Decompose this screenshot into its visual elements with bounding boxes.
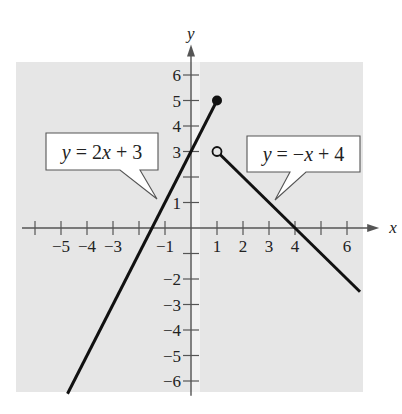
y-tick-label: 3 bbox=[173, 143, 182, 162]
x-tick-label: −4 bbox=[78, 237, 97, 256]
y-tick-label: 6 bbox=[173, 66, 182, 85]
x-axis-arrow-icon bbox=[367, 224, 379, 232]
y-axis-label: y bbox=[185, 24, 195, 43]
eq-var: y bbox=[60, 141, 71, 164]
eq-var: y bbox=[261, 143, 272, 166]
eq-part: = − bbox=[272, 143, 305, 165]
eq-var: x bbox=[303, 143, 313, 165]
eq-part: = 2 bbox=[71, 141, 102, 163]
x-tick-label: −3 bbox=[104, 237, 122, 256]
y-tick-label: 4 bbox=[173, 117, 182, 136]
y-tick-label: −4 bbox=[163, 321, 182, 340]
x-tick-label: −1 bbox=[156, 237, 174, 256]
y-tick-label: −5 bbox=[163, 347, 181, 366]
y-tick-label: −6 bbox=[163, 372, 181, 391]
eq-part: + 3 bbox=[111, 141, 142, 163]
y-tick-label: −2 bbox=[163, 270, 181, 289]
closed-endpoint-dot bbox=[212, 96, 222, 106]
y-axis-arrow-icon bbox=[187, 45, 195, 57]
callout-equation: y = 2x + 3 bbox=[60, 141, 142, 164]
x-tick-label: 1 bbox=[213, 237, 222, 256]
eq-var: x bbox=[101, 141, 111, 163]
callout-equation: y = −x + 4 bbox=[261, 143, 345, 166]
axis-highlight bbox=[192, 62, 200, 392]
x-tick-label: 6 bbox=[343, 237, 352, 256]
plot-background bbox=[16, 62, 363, 392]
eq-part: + 4 bbox=[313, 143, 344, 165]
y-tick-label: 5 bbox=[173, 92, 182, 111]
y-tick-label: 1 bbox=[173, 194, 182, 213]
piecewise-function-graph: xy −5−4−3−11234665431−2−3−4−5−6 y = 2x +… bbox=[0, 0, 402, 414]
x-tick-label: 3 bbox=[265, 237, 274, 256]
y-tick-label: −3 bbox=[163, 296, 181, 315]
open-endpoint-circle bbox=[213, 147, 222, 156]
x-tick-label: 2 bbox=[239, 237, 248, 256]
x-tick-label: 4 bbox=[291, 237, 300, 256]
x-axis-label: x bbox=[388, 218, 397, 237]
x-tick-label: −5 bbox=[52, 237, 70, 256]
